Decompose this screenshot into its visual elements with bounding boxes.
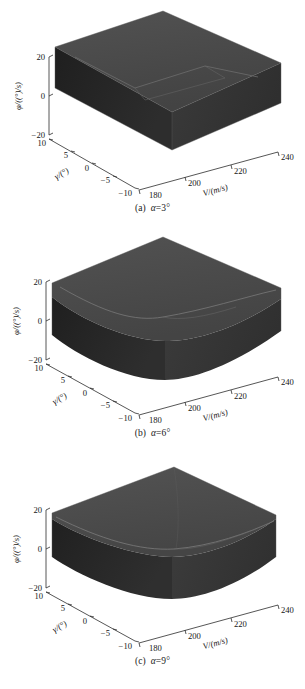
caption-panel-a: (a) α=3° (0, 203, 305, 213)
y-tick-label-0-b: 0 (83, 388, 87, 398)
x-axis-line-a (139, 152, 278, 190)
caption-index-c: (c) (135, 656, 146, 666)
y-tick-label-0-c: 0 (83, 616, 87, 626)
x-tick-180-b (139, 415, 140, 419)
x-tick-label-180-b: 180 (149, 415, 162, 425)
z-tick-label-0-b: 0 (38, 316, 42, 326)
y-tick-m10-b (135, 413, 139, 414)
y-tick-label-10-a: 10 (37, 138, 46, 148)
caption-panel-c: (c) α=9° (0, 656, 305, 666)
caption-value-c: =9° (156, 656, 170, 666)
surface-body-b (52, 237, 281, 380)
y-tick-label-m10-b: −10 (119, 413, 132, 423)
y-axis-title-a: γ/(°) (52, 165, 70, 181)
y-axis-line-a (49, 139, 135, 188)
y-axis-title-c: γ/(°) (50, 618, 68, 634)
y-tick-label-m10-a: −10 (119, 188, 132, 198)
y-tick-10-b (46, 364, 50, 365)
x-axis-title-a: V/(m/s) (202, 182, 229, 198)
z-tick-20-a (49, 55, 53, 57)
y-tick-label-m5-c: −5 (101, 628, 110, 638)
x-tick-label-240-a: 240 (281, 152, 294, 162)
caption-value-b: =6° (156, 428, 170, 438)
z-tick-m20-c (46, 586, 50, 588)
y-tick-10-c (46, 592, 50, 593)
surface-plot-a: 20 0 −20 φ/((°)/s) 10 5 0 −5 −10 γ/(°) (0, 0, 305, 210)
y-tick-m10-c (135, 641, 139, 642)
x-axis-a: 180 200 220 240 V/(m/s) (139, 152, 294, 200)
z-tick-0-c (46, 547, 50, 549)
y-tick-label-m5-b: −5 (101, 400, 110, 410)
y-tick-m5-a (113, 176, 117, 177)
x-tick-label-220-b: 220 (234, 391, 247, 401)
surface-plot-b: 20 0 −20 φ/((°)/s) 10 5 0 −5 −10 γ/(°) (0, 225, 305, 435)
y-tick-label-m10-c: −10 (119, 641, 132, 651)
z-tick-label-0-a: 0 (41, 91, 45, 101)
z-axis-title-a: φ/((°)/s) (13, 82, 23, 110)
x-tick-label-180-a: 180 (149, 190, 162, 200)
x-tick-220-c (231, 618, 232, 622)
y-tick-label-10-b: 10 (34, 363, 43, 373)
z-tick-m20-b (46, 358, 50, 360)
surface-plot-c: 20 0 −20 φ/((°)/s) 10 5 0 −5 −10 γ/(°) (0, 453, 305, 663)
x-tick-label-200-c: 200 (188, 631, 201, 641)
x-tick-240-a (278, 152, 279, 156)
subplot-panel-c: 20 0 −20 φ/((°)/s) 10 5 0 −5 −10 γ/(°) (0, 453, 305, 682)
y-tick-m5-b (113, 401, 117, 402)
z-axis-title-b: φ/((°)/s) (11, 307, 21, 335)
z-axis-b: 20 0 −20 φ/((°)/s) (11, 277, 50, 365)
x-tick-label-200-a: 200 (188, 178, 201, 188)
z-tick-label-20-b: 20 (33, 277, 42, 287)
y-tick-m10-a (135, 188, 139, 189)
caption-panel-b: (b) α=6° (0, 428, 305, 438)
z-tick-20-c (46, 508, 50, 510)
x-axis-title-b: V/(m/s) (202, 407, 229, 423)
z-axis-c: 20 0 −20 φ/((°)/s) (11, 505, 50, 593)
z-tick-label-20-c: 20 (33, 505, 42, 515)
x-axis-line-c (139, 605, 278, 643)
x-tick-220-a (231, 165, 232, 169)
z-axis-a: 20 0 −20 φ/((°)/s) (13, 52, 53, 140)
y-tick-m5-c (113, 629, 117, 630)
y-axis-c: 10 5 0 −5 −10 γ/(°) (34, 591, 139, 651)
z-tick-label-20-a: 20 (36, 52, 45, 62)
surface-body-a (55, 11, 281, 150)
z-tick-20-b (46, 280, 50, 282)
x-tick-180-a (139, 190, 140, 194)
x-axis-c: 180 200 220 240 V/(m/s) (139, 605, 294, 653)
x-tick-label-240-c: 240 (281, 605, 294, 615)
x-axis-title-c: V/(m/s) (202, 635, 229, 651)
x-tick-label-200-b: 200 (188, 403, 201, 413)
y-tick-label-5-a: 5 (64, 150, 68, 160)
y-tick-label-m5-a: −5 (101, 175, 110, 185)
x-tick-label-240-b: 240 (281, 377, 294, 387)
x-tick-240-c (278, 605, 279, 609)
caption-value-a: =3° (156, 203, 170, 213)
y-tick-label-5-b: 5 (61, 375, 65, 385)
surface-body-c (52, 467, 276, 599)
y-axis-title-b: γ/(°) (50, 390, 68, 406)
subplot-panel-b: 20 0 −20 φ/((°)/s) 10 5 0 −5 −10 γ/(°) (0, 225, 305, 454)
caption-index-b: (b) (135, 428, 146, 438)
z-tick-0-b (46, 319, 50, 321)
y-tick-label-10-c: 10 (34, 591, 43, 601)
y-tick-10-a (49, 139, 53, 140)
figure-multi-panel-3d-surface: 20 0 −20 φ/((°)/s) 10 5 0 −5 −10 γ/(°) (0, 0, 305, 689)
caption-index-a: (a) (135, 203, 146, 213)
x-axis-line-b (139, 377, 278, 415)
y-tick-label-5-c: 5 (61, 603, 65, 613)
y-axis-a: 10 5 0 −5 −10 γ/(°) (37, 138, 139, 198)
z-tick-m20-a (49, 133, 53, 135)
z-tick-0-a (49, 94, 53, 96)
x-tick-220-b (231, 390, 232, 394)
z-axis-title-c: φ/((°)/s) (11, 535, 21, 563)
subplot-panel-a: 20 0 −20 φ/((°)/s) 10 5 0 −5 −10 γ/(°) (0, 0, 305, 229)
x-tick-180-c (139, 643, 140, 647)
x-tick-label-220-c: 220 (234, 619, 247, 629)
y-tick-label-0-a: 0 (85, 163, 89, 173)
x-axis-b: 180 200 220 240 V/(m/s) (139, 377, 294, 425)
x-tick-label-180-c: 180 (149, 643, 162, 653)
x-tick-240-b (278, 377, 279, 381)
z-tick-label-0-c: 0 (38, 544, 42, 554)
x-tick-label-220-a: 220 (234, 166, 247, 176)
